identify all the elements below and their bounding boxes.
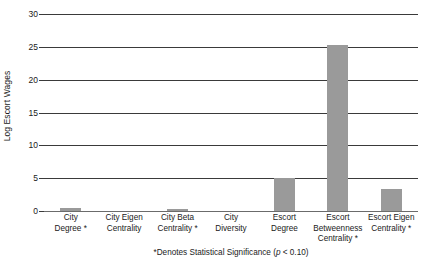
gridline-30 [44, 14, 418, 15]
y-tick-label-15: 15 [12, 108, 38, 117]
y-tick-label-30: 30 [12, 10, 38, 19]
plot-area [44, 14, 418, 211]
gridline-0 [44, 211, 418, 212]
y-tick-label-10: 10 [12, 141, 38, 150]
y-tick-mark-30 [39, 14, 44, 15]
y-tick-mark-5 [39, 178, 44, 179]
y-tick-label-5: 5 [12, 174, 38, 183]
y-tick-label-20: 20 [12, 75, 38, 84]
bar [274, 178, 295, 211]
footnote-after: < 0.10) [280, 248, 308, 257]
x-axis-label-line: Escort Eigen [357, 213, 426, 224]
gridline-15 [44, 113, 418, 114]
gridline-25 [44, 47, 418, 48]
x-axis-label: Escort EigenCentrality * [357, 213, 426, 234]
footnote-before: *Denotes Statistical Significance ( [154, 248, 276, 257]
y-tick-mark-20 [39, 80, 44, 81]
gridline-10 [44, 145, 418, 146]
x-axis-label-line: Centrality * [357, 224, 426, 235]
x-axis-tick-labels: CityDegree *City EigenCentralityCity Bet… [44, 213, 418, 247]
y-axis-tick-labels: 051015202530 [5, 14, 38, 211]
bar [381, 189, 402, 211]
y-tick-mark-10 [39, 145, 44, 146]
chart-footnote: *Denotes Statistical Significance (p < 0… [44, 248, 418, 258]
y-tick-label-25: 25 [12, 43, 38, 52]
x-axis-label-line: Centrality * [303, 234, 372, 245]
y-tick-mark-15 [39, 113, 44, 114]
bar-chart: Log Escort Wages 051015202530 CityDegree… [0, 0, 426, 264]
bar [60, 208, 81, 211]
bar [167, 209, 188, 211]
gridline-20 [44, 80, 418, 81]
y-tick-label-0: 0 [12, 207, 38, 216]
gridline-5 [44, 178, 418, 179]
y-tick-mark-25 [39, 47, 44, 48]
bar [327, 45, 348, 211]
y-tick-mark-0 [39, 211, 44, 212]
